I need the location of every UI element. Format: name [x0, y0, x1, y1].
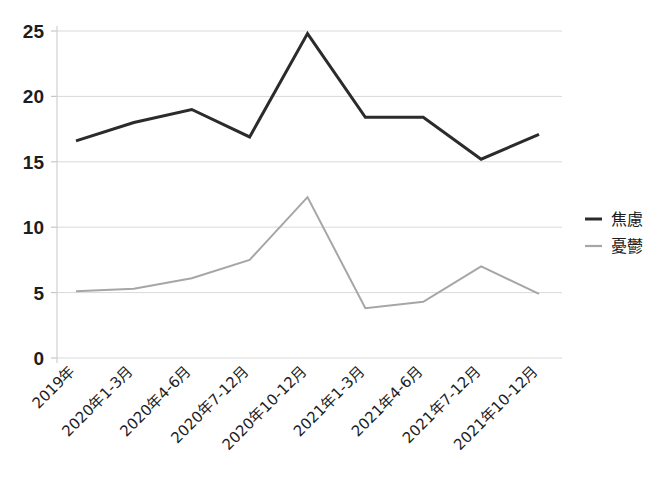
legend-label: 焦慮: [611, 210, 643, 229]
line-chart: 2520151050 2019年2020年1-3月2020年4-6月2020年7…: [0, 0, 665, 490]
tickmarks-group: [51, 31, 57, 358]
y-tick-label: 20: [23, 86, 44, 107]
x-tick-label: 2019年: [28, 362, 78, 412]
legend: 焦慮憂鬱: [585, 210, 643, 256]
legend-label: 憂鬱: [611, 237, 643, 256]
y-tick-label: 25: [23, 21, 45, 42]
y-tick-label: 5: [33, 283, 44, 304]
y-tick-label: 10: [23, 217, 44, 238]
y-axis-labels: 2520151050: [23, 21, 45, 369]
x-axis-labels: 2019年2020年1-3月2020年4-6月2020年7-12月2020年10…: [28, 362, 541, 454]
series-line-depression: [76, 197, 539, 308]
y-tick-label: 0: [33, 348, 44, 369]
y-tick-label: 15: [23, 152, 45, 173]
data-series-group: [76, 34, 539, 309]
chart-canvas: 2520151050 2019年2020年1-3月2020年4-6月2020年7…: [0, 0, 665, 490]
gridlines-group: [57, 31, 562, 358]
